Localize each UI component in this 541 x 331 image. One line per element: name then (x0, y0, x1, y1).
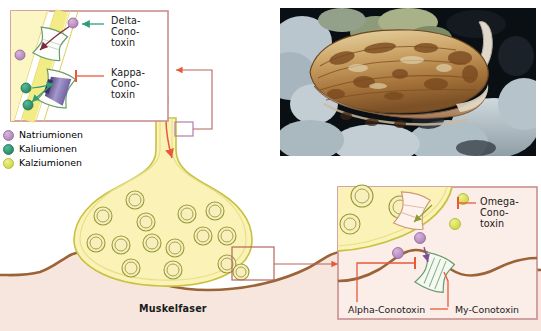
delta-conotoxin-label-line3: toxin (111, 37, 135, 48)
my-conotoxin-label: My-Conotoxin (455, 304, 519, 315)
legend-item-sodium: Natriumionen (3, 128, 83, 142)
omega-conotoxin-label-line3: toxin (480, 218, 504, 229)
legend-label-sodium: Natriumionen (19, 128, 83, 142)
potassium-ion-icon (3, 144, 14, 155)
omega-conotoxin-label-line2: Cono- (480, 207, 509, 218)
calcium-ion-icon (3, 158, 14, 169)
figure-canvas: Delta- Cono- toxin Kappa- Cono- toxin Na… (0, 0, 541, 331)
axon-zoom-box (175, 122, 193, 136)
kappa-conotoxin-label: Kappa- (111, 67, 145, 78)
muscle-fiber-label: Muskelfaser (139, 303, 207, 314)
delta-conotoxin-label: Delta- (111, 15, 141, 26)
calcium-ion (450, 219, 461, 230)
sodium-ion (15, 50, 25, 60)
sodium-ion (68, 18, 78, 28)
sodium-ion (393, 248, 404, 259)
alpha-conotoxin-label: Alpha-Conotoxin (348, 304, 425, 315)
potassium-ion (23, 100, 33, 110)
sodium-ion-icon (3, 130, 14, 141)
sodium-ion (415, 233, 426, 244)
legend-item-potassium: Kaliumionen (3, 142, 83, 156)
ion-legend: Natriumionen Kaliumionen Kalziumionen (3, 128, 83, 170)
legend-item-calcium: Kalziumionen (3, 156, 83, 170)
legend-label-potassium: Kaliumionen (19, 142, 77, 156)
legend-label-calcium: Kalziumionen (19, 156, 82, 170)
kappa-conotoxin-label-line2: Cono- (111, 78, 140, 89)
axon-membrane-channels-inset (11, 11, 168, 121)
omega-conotoxin-label: Omega- (480, 196, 519, 207)
delta-conotoxin-label-line2: Cono- (111, 26, 140, 37)
kappa-conotoxin-label-line3: toxin (111, 89, 135, 100)
potassium-ion (21, 83, 31, 93)
